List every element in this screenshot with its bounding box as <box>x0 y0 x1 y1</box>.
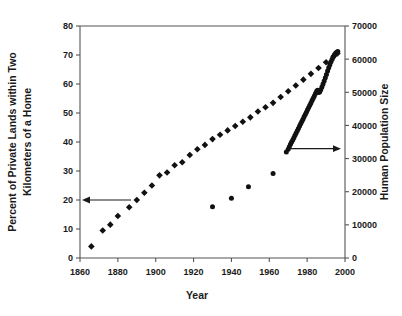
data-point-diamond <box>292 82 299 89</box>
data-point-diamond <box>255 108 262 115</box>
data-point-diamond <box>300 76 307 83</box>
data-point-diamond <box>315 65 322 72</box>
data-point-diamond <box>88 243 95 250</box>
data-point-diamond <box>126 204 133 211</box>
series-percent-private-lands <box>88 50 341 249</box>
x-axis-title: Year <box>186 289 208 301</box>
data-point-diamond <box>149 182 156 189</box>
data-point-diamond <box>224 127 231 134</box>
data-point-diamond <box>308 71 315 78</box>
x-axis-tick-label: 2000 <box>335 267 355 277</box>
x-axis-tick-label: 1880 <box>108 267 128 277</box>
data-point-diamond <box>179 159 186 166</box>
data-point-diamond <box>141 189 148 196</box>
x-axis-tick-label: 1960 <box>259 267 279 277</box>
y-axis-left-tick-label: 80 <box>63 21 73 31</box>
x-axis-tick-label: 1980 <box>297 267 317 277</box>
data-point-diamond <box>285 88 292 95</box>
chart-figure: 0102030405060708001000020000300004000050… <box>0 0 402 316</box>
y-axis-right-tick-label: 40000 <box>352 121 377 131</box>
y-axis-left-tick-label: 0 <box>68 253 73 263</box>
y-axis-right-tick-label: 0 <box>352 253 357 263</box>
y-axis-right-tick-label: 70000 <box>352 21 377 31</box>
y-axis-left-tick-label: 60 <box>63 79 73 89</box>
data-point-circle <box>246 184 251 189</box>
data-point-diamond <box>217 131 224 138</box>
y-axis-right-tick-label: 50000 <box>352 88 377 98</box>
data-point-diamond <box>262 104 269 111</box>
data-point-circle <box>335 49 340 54</box>
data-point-circle <box>210 204 215 209</box>
x-axis-tick-label: 1920 <box>184 267 204 277</box>
data-point-circle <box>229 196 234 201</box>
data-point-diamond <box>99 227 106 234</box>
y-axis-right-title: Human Population Size <box>378 84 390 201</box>
data-point-diamond <box>247 114 254 121</box>
data-point-diamond <box>209 136 216 143</box>
y-axis-right-tick-label: 10000 <box>352 220 377 230</box>
left-axis-arrow <box>82 197 131 204</box>
data-point-circle <box>271 171 276 176</box>
data-point-diamond <box>277 94 284 101</box>
data-point-diamond <box>171 162 178 169</box>
series-human-population <box>210 171 276 209</box>
data-point-diamond <box>202 142 209 149</box>
data-point-diamond <box>164 169 171 176</box>
data-point-diamond <box>239 118 246 125</box>
y-axis-left-title-line1: Percent of Private Lands within Two <box>6 52 18 232</box>
data-point-diamond <box>232 123 239 130</box>
y-axis-left-tick-label: 10 <box>63 224 73 234</box>
data-point-diamond <box>186 152 193 159</box>
y-axis-left-title-line2: Kilometers of a Home <box>21 88 33 196</box>
data-point-diamond <box>115 213 122 220</box>
right-arrow-head-icon <box>333 145 341 152</box>
data-point-diamond <box>156 172 163 179</box>
x-axis-tick-label: 1860 <box>70 267 90 277</box>
y-axis-right-tick-label: 30000 <box>352 154 377 164</box>
data-point-diamond <box>107 221 114 228</box>
right-axis-arrow <box>291 145 341 152</box>
y-axis-right-tick-label: 20000 <box>352 187 377 197</box>
y-axis-left-tick-label: 20 <box>63 195 73 205</box>
data-point-diamond <box>270 100 277 107</box>
series-human-population <box>284 49 340 154</box>
data-point-diamond <box>133 197 140 204</box>
scatter-chart: 0102030405060708001000020000300004000050… <box>0 0 402 316</box>
y-axis-left-tick-label: 30 <box>63 166 73 176</box>
left-arrow-head-icon <box>82 197 90 204</box>
y-axis-left-tick-label: 40 <box>63 137 73 147</box>
y-axis-left-tick-label: 50 <box>63 108 73 118</box>
x-axis-tick-label: 1940 <box>221 267 241 277</box>
data-point-diamond <box>194 146 201 153</box>
x-axis-tick-label: 1900 <box>146 267 166 277</box>
y-axis-left-tick-label: 70 <box>63 50 73 60</box>
y-axis-right-tick-label: 60000 <box>352 55 377 65</box>
